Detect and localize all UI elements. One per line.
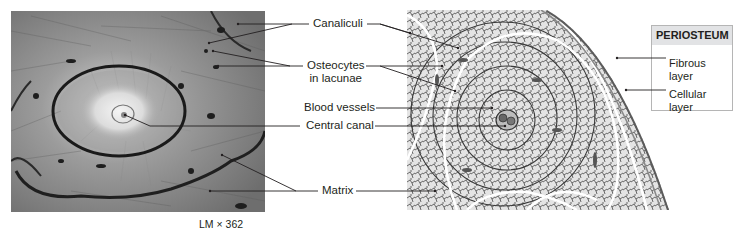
- fibrous-layer-label: Fibrous layer: [669, 57, 706, 83]
- osteon-drawing: [407, 10, 669, 210]
- fibrous-layer-line1: Fibrous: [669, 57, 706, 70]
- osteocytes-line2: in lacunae: [307, 72, 365, 85]
- fibrous-layer-line2: layer: [669, 70, 706, 83]
- cellular-layer-label: Cellular layer: [669, 88, 706, 114]
- central-canal-label: Central canal: [305, 119, 375, 132]
- cellular-layer-line2: layer: [669, 101, 706, 114]
- periosteum-legend: PERIOSTEUM Fibrous layer Cellular layer: [651, 25, 733, 111]
- magnification-caption: LM × 362: [199, 218, 243, 230]
- canaliculi-label: Canaliculi: [312, 17, 364, 30]
- osteocytes-label: Osteocytes in lacunae: [306, 59, 366, 85]
- periosteum-title: PERIOSTEUM: [652, 26, 732, 45]
- cellular-layer-line1: Cellular: [669, 88, 706, 101]
- osteocytes-line1: Osteocytes: [307, 59, 365, 72]
- blood-vessels-label: Blood vessels: [303, 101, 376, 114]
- matrix-label: Matrix: [321, 184, 354, 197]
- micrograph-photo: [11, 11, 265, 212]
